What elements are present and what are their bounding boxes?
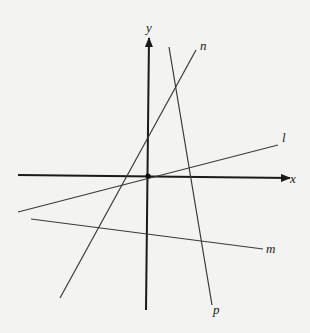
line-p-label: p: [212, 302, 220, 317]
x-axis-label: x: [289, 171, 296, 186]
line-m-label: m: [266, 241, 275, 256]
y-axis-label: y: [144, 20, 152, 35]
coordinate-diagram: y x l m n p: [0, 0, 310, 333]
line-l-label: l: [282, 130, 286, 145]
line-n-label: n: [200, 38, 207, 53]
origin-point: [145, 173, 150, 178]
